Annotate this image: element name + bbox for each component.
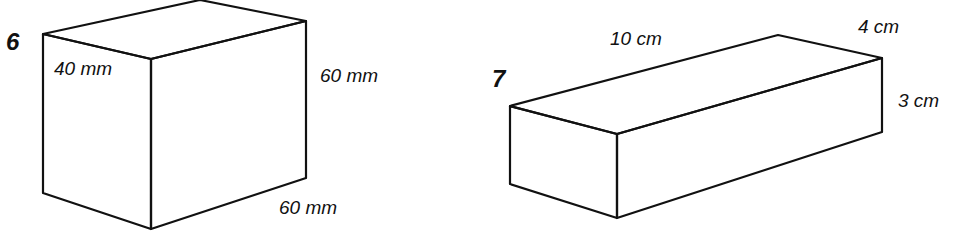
cuboid-7-length-label: 10 cm <box>610 28 662 49</box>
cuboid-6: 6 40 mm 60 mm 60 mm <box>6 0 378 229</box>
cuboid-7-height-label: 3 cm <box>898 90 939 111</box>
cuboid-7-front-face <box>617 58 882 218</box>
cuboid-7: 7 10 cm 4 cm 3 cm <box>492 16 939 218</box>
cuboid-6-top-face <box>43 0 306 59</box>
cuboid-7-top-face <box>510 35 882 134</box>
diagram-canvas: 6 40 mm 60 mm 60 mm 7 10 cm 4 cm 3 cm <box>0 0 957 231</box>
cuboid-7-end-face <box>510 106 617 218</box>
cuboid-7-depth-label: 4 cm <box>858 16 899 37</box>
cuboid-6-height-label: 60 mm <box>320 65 378 86</box>
cuboid-6-length-label: 60 mm <box>279 197 337 218</box>
cuboid-6-depth-label: 40 mm <box>54 58 112 79</box>
cuboids-drawing: 6 40 mm 60 mm 60 mm 7 10 cm 4 cm 3 cm <box>0 0 957 231</box>
figure-6-number: 6 <box>6 28 20 55</box>
figure-7-number: 7 <box>492 65 507 92</box>
